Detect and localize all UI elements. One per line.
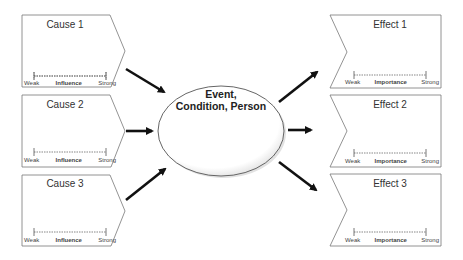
scale-high: Strong — [421, 237, 439, 243]
scale-low: Weak — [345, 79, 360, 85]
center-text: Event, Condition, Person — [161, 88, 281, 112]
cause-2-scale: Weak Influence Strong — [24, 157, 116, 163]
center-line-2: Condition, Person — [161, 100, 281, 112]
scale-label: Importance — [375, 158, 407, 164]
scale-label: Importance — [375, 79, 407, 85]
center-line-1: Event, — [161, 88, 281, 100]
effect-1-title: Effect 1 — [350, 19, 430, 30]
arrow-center-to-effect1 — [279, 72, 317, 102]
scale-low: Weak — [345, 158, 360, 164]
effect-3-scale: Weak Importance Strong — [345, 237, 439, 243]
scale-label: Influence — [56, 237, 82, 243]
arrow-cause3-to-center — [126, 169, 165, 200]
scale-label: Importance — [375, 237, 407, 243]
effect-2-title: Effect 2 — [350, 99, 430, 110]
scale-low: Weak — [24, 237, 39, 243]
effect-2-scale: Weak Importance Strong — [345, 158, 439, 164]
cause-1-scale: Weak Influence Strong — [24, 80, 116, 86]
scale-low: Weak — [24, 157, 39, 163]
cause-3-scale: Weak Influence Strong — [24, 237, 116, 243]
scale-low: Weak — [24, 80, 39, 86]
scale-high: Strong — [421, 158, 439, 164]
cause-3-title: Cause 3 — [25, 178, 105, 189]
effect-1-scale: Weak Importance Strong — [345, 79, 439, 85]
scale-high: Strong — [98, 157, 116, 163]
scale-low: Weak — [345, 237, 360, 243]
scale-label: Influence — [56, 80, 82, 86]
arrow-cause1-to-center — [126, 69, 164, 92]
scale-high: Strong — [98, 237, 116, 243]
cause-1-title: Cause 1 — [25, 19, 105, 30]
scale-label: Influence — [56, 157, 82, 163]
diagram-canvas — [0, 0, 463, 260]
scale-high: Strong — [421, 79, 439, 85]
scale-high: Strong — [98, 80, 116, 86]
effect-3-title: Effect 3 — [350, 178, 430, 189]
cause-2-title: Cause 2 — [25, 99, 105, 110]
arrow-center-to-effect3 — [279, 162, 316, 190]
